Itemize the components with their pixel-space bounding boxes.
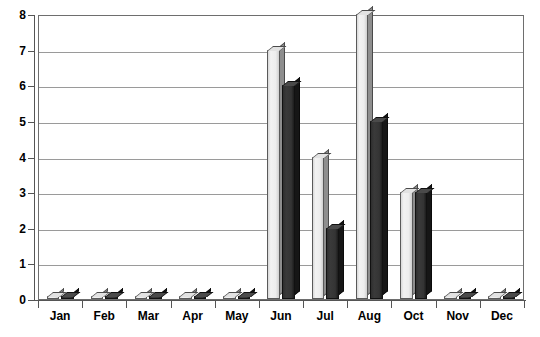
bar-aug-series2[interactable]	[370, 121, 383, 299]
x-axis-tick	[259, 301, 260, 308]
y-axis-label-wrap: 4	[0, 152, 26, 164]
x-axis-tick	[215, 301, 216, 308]
y-axis-tick	[28, 229, 35, 230]
bar-front-face	[400, 192, 413, 299]
bar-front-face	[326, 228, 339, 299]
y-axis-label-wrap: 1	[0, 258, 26, 270]
bar-jun-series2[interactable]	[282, 85, 295, 299]
bar-mar-series2[interactable]	[149, 296, 162, 299]
y-axis-label: 6	[2, 80, 26, 92]
bar-oct-series2[interactable]	[415, 192, 428, 299]
bar-front-face	[415, 192, 428, 299]
bar-oct-series1[interactable]	[400, 192, 413, 299]
y-axis-label: 7	[2, 45, 26, 57]
x-axis-label-dec: Dec	[472, 310, 532, 322]
x-axis-line	[34, 300, 526, 301]
y-axis-tick	[28, 158, 35, 159]
y-axis-tick	[28, 15, 35, 16]
y-axis-tick	[28, 264, 35, 265]
y-axis-label: 8	[2, 9, 26, 21]
x-axis-tick	[303, 301, 304, 308]
bar-apr-series2[interactable]	[194, 296, 207, 299]
plot-area	[38, 15, 524, 300]
y-axis-label-wrap: 3	[0, 187, 26, 199]
bar-jun-series1[interactable]	[267, 50, 280, 299]
bar-aug-series1[interactable]	[356, 14, 369, 299]
y-axis-label-wrap: 8	[0, 9, 26, 21]
bar-front-face	[312, 157, 325, 300]
x-axis-tick	[480, 301, 481, 308]
bar-dec-series2[interactable]	[503, 296, 516, 299]
y-axis-label-wrap: 0	[0, 294, 26, 306]
y-axis-tick	[28, 193, 35, 194]
bar-nov-series2[interactable]	[459, 296, 472, 299]
bar-front-face	[356, 14, 369, 299]
x-axis-tick	[82, 301, 83, 308]
y-axis-label-wrap: 7	[0, 45, 26, 57]
y-axis-label: 0	[2, 294, 26, 306]
bar-side-face	[383, 113, 388, 295]
y-axis-label: 3	[2, 187, 26, 199]
bar-may-series1[interactable]	[223, 296, 236, 299]
bar-chart: 012345678 JanFebMarAprMayJunJulAugOctNov…	[0, 0, 540, 337]
bar-jul-series1[interactable]	[312, 157, 325, 300]
bar-dec-series1[interactable]	[488, 296, 501, 299]
x-axis-tick	[171, 301, 172, 308]
y-axis-label: 1	[2, 258, 26, 270]
bar-top-face	[149, 292, 168, 297]
bar-jul-series2[interactable]	[326, 228, 339, 299]
y-axis-tick	[28, 51, 35, 52]
y-axis-tick	[28, 86, 35, 87]
y-axis-label: 5	[2, 116, 26, 128]
x-axis-tick	[38, 301, 39, 308]
bar-apr-series1[interactable]	[179, 296, 192, 299]
bar-nov-series1[interactable]	[444, 296, 457, 299]
y-axis-label-wrap: 6	[0, 80, 26, 92]
bar-side-face	[295, 77, 300, 295]
bar-may-series2[interactable]	[238, 296, 251, 299]
bar-front-face	[267, 50, 280, 299]
bar-mar-series1[interactable]	[135, 296, 148, 299]
x-axis-tick	[436, 301, 437, 308]
x-axis-tick	[126, 301, 127, 308]
bar-front-face	[370, 121, 383, 299]
x-axis-tick	[524, 301, 525, 308]
y-axis-tick	[28, 122, 35, 123]
y-axis-label: 4	[2, 152, 26, 164]
bar-side-face	[339, 220, 344, 295]
bar-side-face	[427, 184, 432, 295]
bar-feb-series1[interactable]	[91, 296, 104, 299]
bar-front-face	[282, 85, 295, 299]
bar-jan-series1[interactable]	[47, 296, 60, 299]
bar-feb-series2[interactable]	[105, 296, 118, 299]
x-axis-tick	[347, 301, 348, 308]
y-axis-label: 2	[2, 223, 26, 235]
y-axis-label-wrap: 5	[0, 116, 26, 128]
y-axis-label-wrap: 2	[0, 223, 26, 235]
bar-jan-series2[interactable]	[61, 296, 74, 299]
x-axis-tick	[391, 301, 392, 308]
